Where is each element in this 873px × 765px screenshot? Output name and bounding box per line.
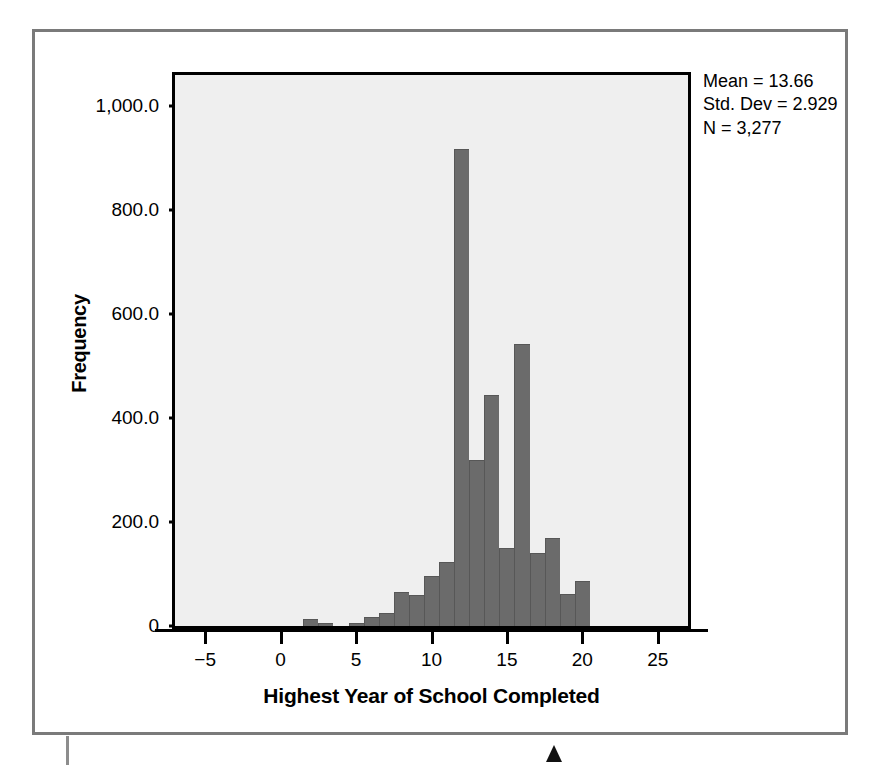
histogram-bar <box>454 149 469 626</box>
x-axis-tick-mark <box>657 632 660 644</box>
x-axis-tick-label: 20 <box>547 649 617 671</box>
x-axis-tick-label: 0 <box>246 649 316 671</box>
x-axis-tick-mark <box>431 632 434 644</box>
figure-outer-frame: Frequency 0200.0400.0600.0800.01,000.0 −… <box>32 29 848 735</box>
x-axis-tick-label: 5 <box>321 649 391 671</box>
histogram-bar <box>560 594 575 626</box>
x-axis-tick-label: 10 <box>397 649 467 671</box>
histogram-bar <box>439 562 454 626</box>
histogram-bar <box>530 553 545 626</box>
statistics-annotation: Mean = 13.66 Std. Dev = 2.929 N = 3,277 <box>703 70 838 140</box>
x-axis-title: Highest Year of School Completed <box>172 684 691 708</box>
histogram-chart: Frequency 0200.0400.0600.0800.01,000.0 −… <box>35 32 851 738</box>
stat-std-dev: Std. Dev = 2.929 <box>703 93 838 116</box>
stat-n: N = 3,277 <box>703 117 838 140</box>
x-axis-tick-label: −5 <box>170 649 240 671</box>
histogram-bar <box>303 619 318 626</box>
histogram-bar <box>364 617 379 626</box>
y-axis-tick-label: 600.0 <box>49 303 159 325</box>
plot-area <box>172 72 691 629</box>
y-axis-tick-label: 800.0 <box>49 199 159 221</box>
histogram-bar <box>484 395 499 626</box>
x-axis-tick-mark <box>506 632 509 644</box>
y-axis-tick-label: 200.0 <box>49 511 159 533</box>
histogram-bars <box>175 75 688 626</box>
histogram-bar <box>394 592 409 626</box>
histogram-bar <box>514 344 529 626</box>
histogram-bar <box>575 581 590 626</box>
x-axis-tick-mark <box>581 632 584 644</box>
histogram-bar <box>499 548 514 626</box>
y-axis-tick-label: 400.0 <box>49 407 159 429</box>
x-axis-tick-label: 15 <box>472 649 542 671</box>
x-axis-tick-mark <box>204 632 207 644</box>
x-axis-tick-mark <box>355 632 358 644</box>
page-left-rule <box>66 736 69 765</box>
histogram-bar <box>349 623 364 626</box>
x-axis-tick-mark <box>280 632 283 644</box>
x-axis-tick-label: 25 <box>623 649 693 671</box>
stat-mean: Mean = 13.66 <box>703 70 838 93</box>
histogram-bar <box>318 623 333 626</box>
histogram-bar <box>469 460 484 626</box>
y-axis-tick-labels: 0200.0400.0600.0800.01,000.0 <box>43 32 159 738</box>
y-axis-tick-label: 0 <box>49 615 159 637</box>
histogram-bar <box>379 613 394 627</box>
histogram-bar <box>424 576 439 626</box>
plot-inner <box>175 75 688 626</box>
histogram-bar <box>545 538 560 626</box>
up-arrow-icon <box>546 745 562 762</box>
histogram-bar <box>409 595 424 626</box>
y-axis-tick-label: 1,000.0 <box>49 95 159 117</box>
